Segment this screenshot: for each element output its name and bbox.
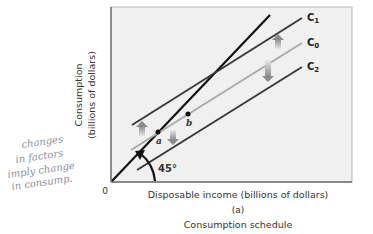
point-label-a: a: [156, 136, 162, 146]
y-axis-label: Consumption: [73, 64, 84, 127]
plot-area: [111, 7, 352, 182]
angle-label: 45°: [158, 163, 177, 174]
point-label-b: b: [186, 118, 192, 128]
point-b: [186, 112, 191, 117]
panel-label: (a): [232, 205, 245, 215]
x-axis-label: Disposable income (billions of dollars): [148, 189, 329, 200]
consumption-chart: 45° ab C1C0C2 0 Disposable income (billi…: [0, 0, 373, 234]
point-a: [156, 130, 161, 135]
origin-label: 0: [102, 186, 108, 196]
handwritten-annotation: changes in factors imply change in consu…: [7, 133, 76, 192]
chart-title: Consumption schedule: [184, 219, 293, 230]
y-axis-label-units: (billions of dollars): [86, 51, 97, 139]
